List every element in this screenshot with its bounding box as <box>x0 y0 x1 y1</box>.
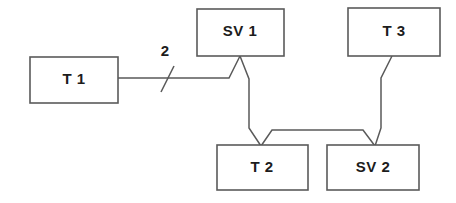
node-t3[interactable]: T 3 <box>348 8 440 56</box>
tick-slash-icon <box>161 66 174 92</box>
node-sv2-label: SV 2 <box>356 158 391 175</box>
node-t1-label: T 1 <box>62 70 85 87</box>
node-t2[interactable]: T 2 <box>217 145 308 190</box>
node-sv2[interactable]: SV 2 <box>327 145 419 190</box>
edge-t2-sv2 <box>261 130 375 146</box>
node-sv1[interactable]: SV 1 <box>197 9 284 56</box>
block-diagram: T 1 SV 1 T 3 T 2 SV 2 2 <box>0 0 456 203</box>
edge-t3-sv2 <box>375 56 392 146</box>
node-t1[interactable]: T 1 <box>30 57 118 103</box>
edge-group <box>118 56 392 146</box>
node-sv1-label: SV 1 <box>223 22 258 39</box>
edge-reference-label-2: 2 <box>161 42 169 59</box>
node-t2-label: T 2 <box>250 158 273 175</box>
edge-t1-sv1 <box>118 56 240 78</box>
edge-sv1-t2 <box>240 56 261 146</box>
node-t3-label: T 3 <box>382 22 405 39</box>
tick-mark-group <box>161 66 174 92</box>
diagram-canvas: T 1 SV 1 T 3 T 2 SV 2 2 <box>0 0 456 203</box>
